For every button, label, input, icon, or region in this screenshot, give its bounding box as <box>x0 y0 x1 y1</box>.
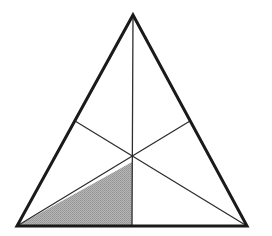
figure-root <box>0 0 272 236</box>
diagram-background <box>0 0 272 236</box>
triangle-median-diagram <box>0 0 272 236</box>
